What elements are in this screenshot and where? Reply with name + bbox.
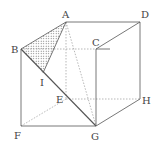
label-g: G — [91, 131, 99, 142]
label-c: C — [92, 37, 100, 48]
shaded-triangle-abi — [21, 22, 66, 73]
label-f: F — [14, 130, 21, 141]
solid-edges — [21, 22, 140, 126]
cube-diagram: A B C D E F G H I — [0, 0, 160, 144]
edge-cd — [96, 22, 140, 49]
label-a: A — [61, 9, 70, 20]
label-h: H — [142, 95, 151, 106]
label-b: B — [11, 44, 18, 55]
label-e: E — [56, 94, 63, 105]
edge-bg — [21, 49, 96, 126]
edge-hg — [96, 99, 140, 126]
cube-svg: A B C D E F G H I — [0, 0, 160, 144]
label-i: I — [40, 77, 44, 88]
label-d: D — [141, 9, 149, 20]
